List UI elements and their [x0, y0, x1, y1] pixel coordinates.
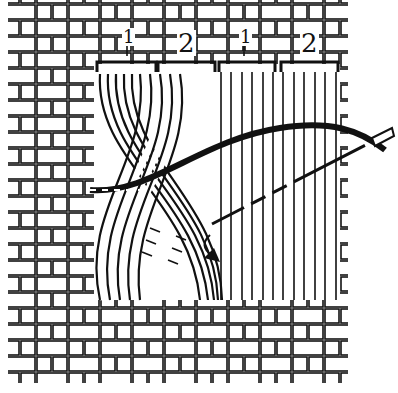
- group-label: 2: [177, 30, 196, 56]
- diagram-svg: [0, 0, 398, 393]
- group-label: 2: [300, 30, 319, 56]
- embroidery-diagram: 1 2 1 2: [0, 0, 398, 393]
- group-label: 1: [239, 28, 252, 46]
- group-label: 1: [122, 28, 135, 46]
